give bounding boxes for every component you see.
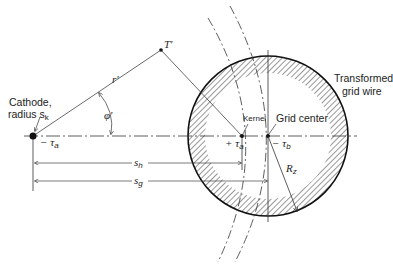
grid-center-label: Grid center — [276, 112, 328, 124]
neg-tau-a-label: − τa — [40, 136, 59, 150]
angle-phi-label: φ' — [104, 109, 113, 121]
cathode-label: Cathode, — [9, 96, 52, 108]
transformed-label: Transformed — [334, 72, 393, 84]
diagram-canvas: Cathode, radius sk T' r' φ' − τa + τa − … — [0, 0, 393, 267]
cathode — [30, 133, 37, 140]
grid-wire-label: grid wire — [342, 85, 382, 97]
kernel-label: Kernel — [243, 114, 266, 123]
cathode-radius-label: radius sk — [8, 108, 50, 122]
point-T-label: T' — [164, 38, 173, 50]
kernel-point — [240, 134, 244, 138]
point-T — [159, 48, 163, 52]
transformed-grid-wire — [180, 50, 360, 225]
radius-r-line — [33, 50, 161, 136]
radius-r-label: r' — [112, 73, 119, 85]
